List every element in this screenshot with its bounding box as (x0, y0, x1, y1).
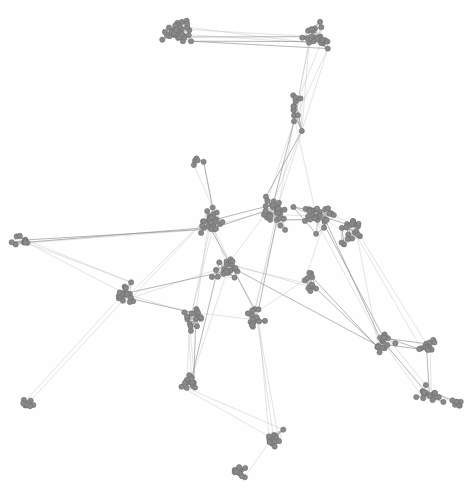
graph-node (127, 299, 132, 304)
graph-node (209, 274, 214, 279)
graph-node (312, 216, 317, 221)
graph-node (23, 240, 28, 245)
graph-node (182, 380, 187, 385)
graph-node (309, 282, 314, 287)
graph-node (324, 217, 329, 222)
graph-node (314, 206, 319, 211)
graph-node (205, 209, 210, 214)
graph-node (185, 21, 190, 26)
graph-node (224, 262, 229, 267)
graph-node (265, 198, 270, 203)
graph-node (189, 311, 194, 316)
graph-node (198, 315, 203, 320)
graph-node (282, 207, 287, 212)
graph-node (319, 25, 324, 30)
graph-node (9, 240, 14, 245)
graph-node (432, 390, 437, 395)
graph-node (194, 324, 199, 329)
graph-node (192, 385, 197, 390)
graph-node (317, 19, 322, 24)
graph-node (309, 27, 314, 32)
graph-node (193, 316, 198, 321)
graph-node (308, 288, 313, 293)
graph-node (220, 219, 225, 224)
graph-node (210, 205, 215, 210)
graph-node (195, 158, 200, 163)
graph-node (314, 231, 319, 236)
graph-node (129, 280, 134, 285)
graph-node (432, 340, 437, 345)
graph-node (355, 232, 360, 237)
graph-node (299, 128, 304, 133)
graph-node (427, 393, 432, 398)
graph-node (160, 37, 165, 42)
graph-node (217, 260, 222, 265)
graph-node (307, 209, 312, 214)
graph-node (275, 206, 280, 211)
graph-node (326, 206, 331, 211)
graph-node (256, 307, 261, 312)
graph-node (239, 474, 244, 479)
graph-node (209, 215, 214, 220)
graph-node (245, 311, 250, 316)
graph-node (421, 396, 426, 401)
graph-node (184, 314, 189, 319)
network-graph-figure (0, 0, 473, 499)
graph-node (325, 39, 330, 44)
graph-node (339, 240, 344, 245)
graph-node (224, 269, 229, 274)
graph-node (123, 285, 128, 290)
graph-node (300, 35, 305, 40)
graph-node (307, 270, 312, 275)
graph-node (208, 220, 213, 225)
graph-node (307, 217, 312, 222)
graph-node (179, 32, 184, 37)
graph-node (441, 399, 446, 404)
graph-node (291, 104, 296, 109)
graph-node (423, 382, 428, 387)
graph-node (450, 398, 455, 403)
graph-node (263, 208, 268, 213)
graph-node (250, 317, 255, 322)
graph-node (188, 324, 193, 329)
graph-node (162, 29, 167, 34)
graph-node (266, 434, 271, 439)
graph-node (344, 225, 349, 230)
graph-node (276, 200, 281, 205)
graph-node (124, 292, 129, 297)
graph-node (174, 27, 179, 32)
graph-node (393, 341, 398, 346)
graph-node (281, 216, 286, 221)
graph-node (215, 274, 220, 279)
graph-node (350, 221, 355, 226)
graph-node (17, 233, 22, 238)
graph-node (189, 376, 194, 381)
graph-node (381, 335, 386, 340)
graph-node (291, 204, 296, 209)
graph-node (270, 203, 275, 208)
graph-node (191, 162, 196, 167)
graph-node (21, 401, 26, 406)
graph-node (291, 119, 296, 124)
graph-canvas (0, 0, 473, 499)
graph-node (272, 444, 277, 449)
graph-node (345, 236, 350, 241)
graph-node (309, 34, 314, 39)
graph-node (321, 225, 326, 230)
graph-node (208, 226, 213, 231)
graph-node (283, 227, 288, 232)
graph-node (320, 37, 325, 42)
graph-node (257, 319, 262, 324)
graph-node (188, 39, 193, 44)
graph-node (230, 259, 235, 264)
graph-node (377, 350, 382, 355)
graph-node (237, 464, 242, 469)
graph-node (278, 223, 283, 228)
graph-node (426, 347, 431, 352)
graph-node (276, 439, 281, 444)
graph-node (243, 465, 248, 470)
graph-node (213, 226, 218, 231)
graph-node (201, 159, 206, 164)
graph-node (311, 39, 316, 44)
graph-node (117, 290, 122, 295)
